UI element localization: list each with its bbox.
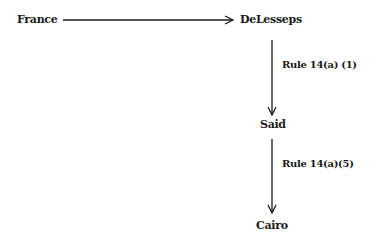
node-said: Said xyxy=(260,118,286,131)
edge-label-rule-14a1: Rule 14(a) (1) xyxy=(282,59,357,70)
node-cairo: Cairo xyxy=(256,219,288,232)
arrows-layer xyxy=(0,0,377,239)
node-delesseps: DeLesseps xyxy=(240,13,302,26)
node-france: France xyxy=(17,13,57,26)
edge-label-rule-14a5: Rule 14(a)(5) xyxy=(282,158,354,169)
